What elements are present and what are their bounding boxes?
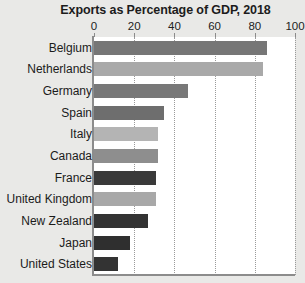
x-axis-line — [92, 274, 295, 276]
x-tick-label: 80 — [248, 20, 261, 32]
bar-row: Japan — [0, 232, 305, 254]
category-label: Netherlands — [0, 63, 92, 75]
category-label: United States — [0, 258, 92, 270]
chart-title: Exports as Percentage of GDP, 2018 — [0, 3, 305, 17]
bar-row: Italy — [0, 124, 305, 146]
bar-row: Spain — [0, 102, 305, 124]
bar — [94, 236, 130, 250]
x-tick-label: 20 — [128, 20, 141, 32]
bar — [94, 41, 267, 55]
bar — [94, 106, 164, 120]
bar-chart: Exports as Percentage of GDP, 2018 02040… — [0, 0, 305, 283]
bar — [94, 62, 263, 76]
bar — [94, 127, 158, 141]
bar-rows: BelgiumNetherlandsGermanySpainItalyCanad… — [0, 37, 305, 275]
x-tick-label: 0 — [91, 20, 97, 32]
bar — [94, 171, 156, 185]
bar — [94, 149, 158, 163]
category-label: Canada — [0, 150, 92, 162]
bar-row: Belgium — [0, 37, 305, 59]
category-label: Italy — [0, 128, 92, 140]
x-tick-label: 40 — [168, 20, 181, 32]
category-label: Germany — [0, 85, 92, 97]
bar — [94, 192, 156, 206]
category-label: Belgium — [0, 42, 92, 54]
category-label: United Kingdom — [0, 193, 92, 205]
x-axis-tick-labels: 020406080100 — [94, 20, 295, 34]
bar — [94, 84, 188, 98]
bar-row: United Kingdom — [0, 188, 305, 210]
x-tick-label: 100 — [285, 20, 304, 32]
x-tick-label: 60 — [208, 20, 221, 32]
bar — [94, 214, 148, 228]
category-label: New Zealand — [0, 215, 92, 227]
category-label: Japan — [0, 237, 92, 249]
category-label: France — [0, 172, 92, 184]
bar-row: Canada — [0, 145, 305, 167]
bar-row: Netherlands — [0, 59, 305, 81]
bar-row: United States — [0, 253, 305, 275]
bar-row: Germany — [0, 80, 305, 102]
category-label: Spain — [0, 107, 92, 119]
bar — [94, 257, 118, 271]
bar-row: New Zealand — [0, 210, 305, 232]
bar-row: France — [0, 167, 305, 189]
